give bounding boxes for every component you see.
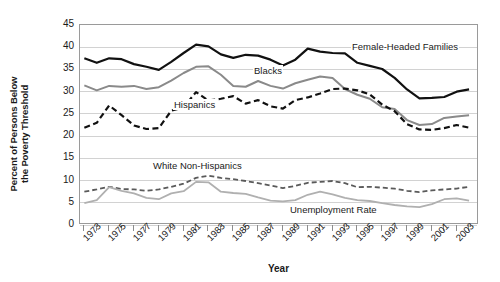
x-axis-title: Year [79, 263, 478, 274]
x-tick-label-1989: 1989 [280, 221, 302, 243]
annotation-hispanics: Hispanics [173, 99, 216, 110]
x-tick-label-1977: 1977 [131, 221, 153, 243]
x-tick-label-1987: 1987 [255, 221, 277, 243]
x-tick-label-1981: 1981 [181, 221, 203, 243]
annotation-blacks: Blacks [253, 65, 283, 76]
annotation-unemployment-rate: Unemployment Rate [289, 204, 378, 215]
poverty-threshold-line-chart: Percent of Persons Below the Poverty Thr… [0, 0, 500, 282]
x-tick-label-1975: 1975 [106, 221, 128, 243]
annotation-female-headed-families: Female-Headed Families [351, 41, 459, 52]
x-tick-label-1983: 1983 [205, 221, 227, 243]
x-tick-label-1991: 1991 [305, 221, 327, 243]
x-tick-label-1979: 1979 [156, 221, 178, 243]
x-tick-label-1997: 1997 [379, 221, 401, 243]
x-tick-label-1985: 1985 [230, 221, 252, 243]
x-tick-label-1993: 1993 [330, 221, 352, 243]
x-tick-label-2003: 2003 [454, 221, 476, 243]
x-tick-label-1995: 1995 [354, 221, 376, 243]
x-tick-label-1973: 1973 [81, 221, 103, 243]
x-tick-label-1999: 1999 [404, 221, 426, 243]
x-tick-label-2001: 2001 [429, 221, 451, 243]
annotation-white-non-hispanics: White Non-Hispanics [152, 160, 243, 171]
